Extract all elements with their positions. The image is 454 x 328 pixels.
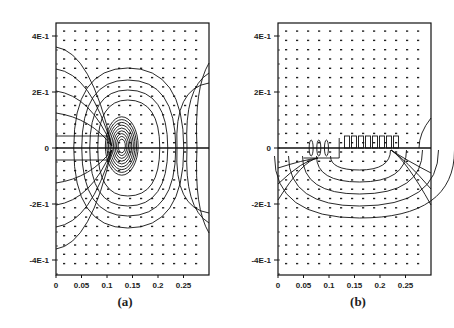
y-tick-label: 2E-1: [254, 88, 271, 97]
y-tick-label: -4E-1: [251, 256, 271, 265]
x-tick-label: 0.05: [74, 281, 90, 290]
y-axis: 4E-12E-10-2E-1-4E-1: [29, 32, 58, 274]
x-tick-label: 0.1: [323, 281, 335, 290]
x-tick-label: 0.15: [347, 281, 363, 290]
x-axis: 00.050.10.150.20.25: [54, 275, 192, 290]
y-tick-label: -2E-1: [29, 200, 49, 209]
x-tick-label: 0.2: [152, 281, 164, 290]
figure: 4E-12E-10-2E-1-4E-100.050.10.150.20.25(a…: [0, 0, 454, 328]
y-axis: 4E-12E-10-2E-1-4E-1: [251, 32, 280, 274]
panel-a: 4E-12E-10-2E-1-4E-100.050.10.150.20.25(a…: [29, 23, 209, 309]
x-tick-label: 0.15: [125, 281, 141, 290]
y-tick-label: -2E-1: [251, 200, 271, 209]
x-axis: 00.050.10.150.20.25: [276, 275, 414, 290]
x-tick-label: 0.1: [101, 281, 113, 290]
y-tick-label: 4E-1: [32, 32, 49, 41]
y-tick-label: 0: [267, 144, 272, 153]
plot-frame: [56, 23, 209, 275]
panel-label: (a): [117, 294, 132, 309]
y-tick-label: 0: [45, 144, 50, 153]
x-tick-label: 0.25: [398, 281, 414, 290]
panel-b: 4E-12E-10-2E-1-4E-100.050.10.150.20.25(b…: [251, 23, 454, 309]
x-tick-label: 0.25: [176, 281, 192, 290]
y-tick-label: 2E-1: [32, 88, 49, 97]
contour-lines: [275, 118, 454, 218]
panel-label: (b): [350, 294, 366, 309]
plot-frame: [278, 23, 431, 275]
x-tick-label: 0.05: [296, 281, 312, 290]
x-tick-label: 0.2: [374, 281, 386, 290]
x-tick-label: 0: [276, 281, 281, 290]
y-tick-label: -4E-1: [29, 256, 49, 265]
y-tick-label: 4E-1: [254, 32, 271, 41]
x-tick-label: 0: [54, 281, 59, 290]
